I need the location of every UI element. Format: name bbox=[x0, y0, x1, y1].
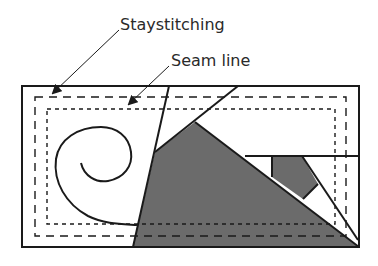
label-seam-line: Seam line bbox=[171, 51, 250, 70]
gray-large-piece bbox=[133, 122, 359, 247]
label-staystitching: Staystitching bbox=[120, 15, 225, 34]
spiral-motif bbox=[56, 127, 137, 225]
quilt-block-diagram: Staystitching Seam line bbox=[0, 0, 378, 266]
arrow-staystitching bbox=[53, 30, 119, 93]
